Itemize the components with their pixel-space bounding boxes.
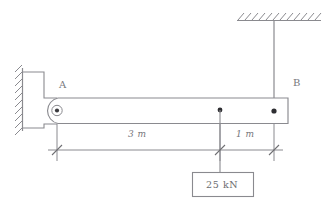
wall-hatching bbox=[15, 65, 22, 135]
ceiling-hatching bbox=[238, 13, 321, 20]
ceiling-support-top bbox=[237, 13, 321, 21]
dimension-label-1m: 1 m bbox=[236, 129, 254, 139]
node-label-A: A bbox=[59, 79, 67, 90]
cable-attachment-dot-B bbox=[271, 108, 276, 113]
beam-AB bbox=[48, 98, 288, 124]
beam-diagram-svg bbox=[0, 0, 327, 204]
load-label-text: 25 kN bbox=[206, 179, 238, 190]
diagram-canvas: A B 3 m 1 m 25 kN bbox=[0, 0, 327, 204]
pin-center-dot bbox=[55, 108, 59, 112]
wall-support-left bbox=[15, 65, 57, 135]
beam-outline bbox=[48, 98, 288, 124]
dimension-label-3m: 3 m bbox=[128, 129, 146, 139]
node-label-B: B bbox=[293, 77, 301, 88]
pin-support-A[interactable] bbox=[52, 105, 62, 115]
